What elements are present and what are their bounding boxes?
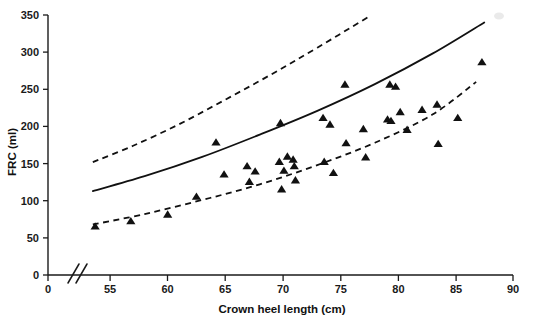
y-tick-label: 0: [33, 269, 39, 281]
y-tick-label: 100: [21, 195, 39, 207]
frc-vs-crown-heel-length-scatter-chart: 0 50 100 150 200 250 300 350 0 55 60 65: [0, 0, 534, 323]
x-tick-label: 0: [45, 283, 51, 295]
y-tick-label: 150: [21, 158, 39, 170]
chart-container: 0 50 100 150 200 250 300 350 0 55 60 65: [0, 0, 534, 323]
x-tick-label: 60: [161, 283, 173, 295]
y-tick-label: 300: [21, 46, 39, 58]
x-tick-label: 65: [219, 283, 231, 295]
scan-artifact: [494, 13, 504, 20]
x-tick-label: 55: [104, 283, 116, 295]
y-tick-label: 50: [27, 232, 39, 244]
x-tick-label: 75: [335, 283, 347, 295]
x-axis-title: Crown heel length (cm): [218, 303, 345, 315]
y-tick-label: 350: [21, 9, 39, 21]
x-tick-label: 80: [392, 283, 404, 295]
y-tick-label: 200: [21, 120, 39, 132]
y-tick-label: 250: [21, 83, 39, 95]
x-tick-label: 70: [277, 283, 289, 295]
y-axis-title: FRC (ml): [6, 128, 18, 176]
x-tick-label: 85: [450, 283, 462, 295]
x-tick-label: 90: [507, 283, 519, 295]
